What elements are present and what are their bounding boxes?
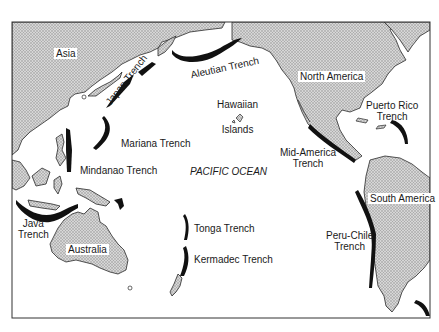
trench-south-sandwich (414, 300, 430, 316)
label-peru-chile-trench: Peru-Chile Trench (326, 230, 373, 252)
mid-america-line1: Mid-America (280, 147, 336, 158)
puerto-rico-line2: Trench (366, 111, 418, 122)
hawaiian-line2: Islands (217, 124, 258, 135)
indonesian-chain (28, 200, 60, 210)
label-puerto-rico-trench: Puerto Rico Trench (366, 100, 418, 122)
sulawesi (54, 176, 62, 194)
borneo (32, 168, 50, 186)
trench-new-guinea (114, 198, 124, 210)
label-mid-america-trench: Mid-America Trench (280, 147, 336, 169)
java-line2: Trench (18, 229, 49, 240)
mid-america-line2: Trench (280, 158, 336, 169)
north-america-landmass (232, 22, 406, 160)
philippines (56, 134, 66, 166)
trench-mindanao (66, 128, 72, 172)
label-tonga-trench: Tonga Trench (194, 223, 255, 234)
trench-tonga (183, 214, 189, 240)
label-kermadec-trench: Kermadec Trench (194, 254, 273, 265)
java-line1: Java (18, 218, 49, 229)
trench-kermadec (180, 246, 188, 276)
new-zealand (170, 274, 182, 296)
label-australia: Australia (66, 244, 109, 255)
hawaiian-line1: Hawaiian (217, 99, 258, 110)
label-hawaiian-islands: Hawaiian Islands (217, 99, 258, 135)
peru-chile-line2: Trench (326, 241, 373, 252)
southeast-asia (12, 160, 30, 190)
peru-chile-line1: Peru-Chile (326, 230, 373, 241)
new-guinea (76, 188, 110, 206)
label-south-america: South America (368, 193, 437, 204)
label-java-trench: Java Trench (18, 218, 49, 240)
label-north-america: North America (298, 71, 365, 82)
label-pacific-ocean: PACIFIC OCEAN (190, 166, 267, 177)
label-asia: Asia (54, 48, 77, 59)
trench-puerto-rico (390, 120, 408, 144)
trench-aleutian (172, 38, 242, 62)
puerto-rico-line1: Puerto Rico (366, 100, 418, 111)
trench-mariana (93, 116, 110, 150)
label-mariana-trench: Mariana Trench (121, 138, 190, 149)
label-mindanao-trench: Mindanao Trench (80, 165, 157, 176)
